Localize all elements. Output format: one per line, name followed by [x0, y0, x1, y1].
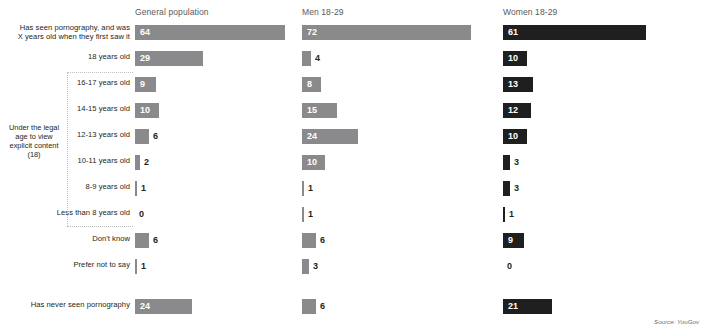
bracket-bottom-tick — [67, 226, 133, 227]
row-label-prefer-not-to-say: Prefer not to say — [2, 260, 130, 269]
row-label-dont-know: Don't know — [2, 234, 130, 243]
bar-value-women-0: 61 — [508, 25, 518, 40]
bar-men-10 — [302, 299, 316, 314]
bracket-label: Under the legal age to view explicit con… — [2, 123, 66, 159]
bar-general-4 — [135, 129, 149, 144]
bar-value-general-8: 6 — [153, 233, 158, 248]
bar-chart: General population Men 18-29 Women 18-29… — [0, 0, 705, 333]
bar-value-men-4: 24 — [307, 129, 317, 144]
column-header-general-population: General population — [135, 7, 209, 17]
bar-value-men-6: 1 — [308, 181, 313, 196]
bar-value-men-9: 3 — [313, 259, 318, 274]
bar-value-women-8: 9 — [508, 233, 513, 248]
bar-women-6 — [503, 181, 510, 196]
column-header-women-18-29: Women 18-29 — [503, 7, 557, 17]
bar-value-men-0: 72 — [307, 25, 317, 40]
bar-value-men-7: 1 — [308, 207, 313, 222]
bar-value-men-3: 15 — [307, 103, 317, 118]
bar-value-general-6: 1 — [141, 181, 146, 196]
bar-men-6 — [302, 181, 304, 196]
bar-women-0 — [503, 25, 646, 40]
bar-men-7 — [302, 207, 304, 222]
bar-value-general-1: 29 — [140, 51, 150, 66]
bar-value-general-4: 6 — [153, 129, 158, 144]
bar-value-men-1: 4 — [315, 51, 320, 66]
bar-value-general-7: 0 — [139, 207, 144, 222]
bar-value-general-5: 2 — [144, 155, 149, 170]
bar-value-women-4: 10 — [508, 129, 518, 144]
column-header-men-18-29: Men 18-29 — [302, 7, 344, 17]
bar-general-9 — [135, 259, 137, 274]
bracket-top-tick — [67, 72, 133, 73]
row-label-8-9-years-old: 8-9 years old — [2, 182, 130, 191]
bar-women-5 — [503, 155, 510, 170]
row-label-18-years-old: 18 years old — [2, 52, 130, 61]
bar-value-women-6: 3 — [514, 181, 519, 196]
row-label-has-never-seen-pornography: Has never seen pornography — [2, 300, 130, 309]
row-label-less-than-8-years-old: Less than 8 years old — [2, 208, 130, 217]
bar-value-men-8: 6 — [320, 233, 325, 248]
bar-value-general-10: 24 — [140, 299, 150, 314]
bar-men-9 — [302, 259, 309, 274]
bar-value-general-3: 10 — [140, 103, 150, 118]
bar-men-8 — [302, 233, 316, 248]
bar-value-women-2: 13 — [508, 77, 518, 92]
row-label-has-seen-pornography: Has seen pornography, and was X years ol… — [2, 23, 130, 41]
bar-value-general-9: 1 — [141, 259, 146, 274]
bar-general-2 — [135, 77, 156, 92]
bar-value-men-10: 6 — [320, 299, 325, 314]
bracket-vertical-line — [67, 72, 68, 226]
bar-value-women-10: 21 — [508, 299, 518, 314]
bar-value-women-7: 1 — [509, 207, 514, 222]
bar-men-0 — [302, 25, 471, 40]
bar-value-women-1: 10 — [508, 51, 518, 66]
bar-general-0 — [135, 25, 285, 40]
row-label-16-17-years-old: 16-17 years old — [2, 78, 130, 87]
bar-value-general-2: 9 — [140, 77, 145, 92]
bar-value-women-9: 0 — [507, 259, 512, 274]
bar-women-8 — [503, 233, 524, 248]
bar-value-women-3: 12 — [508, 103, 518, 118]
source-note: Source: YouGov — [654, 318, 699, 325]
bar-value-general-0: 64 — [140, 25, 150, 40]
bar-general-6 — [135, 181, 137, 196]
row-label-14-15-years-old: 14-15 years old — [2, 104, 130, 113]
bar-value-men-2: 8 — [307, 77, 312, 92]
bar-women-7 — [503, 207, 505, 222]
bar-general-5 — [135, 155, 140, 170]
bar-general-8 — [135, 233, 149, 248]
bar-value-men-5: 10 — [307, 155, 317, 170]
bar-men-1 — [302, 51, 311, 66]
bar-value-women-5: 3 — [514, 155, 519, 170]
